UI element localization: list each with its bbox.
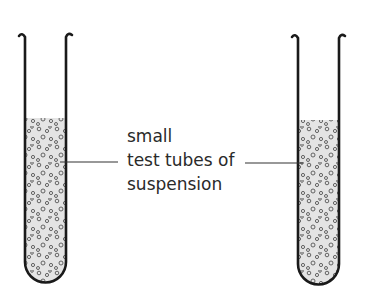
right-test-tube xyxy=(292,35,345,285)
tube-label: small test tubes of suspension xyxy=(127,124,234,196)
left-test-tube xyxy=(19,34,72,283)
label-line-2: test tubes of xyxy=(127,148,234,172)
right-suspension xyxy=(298,120,339,284)
left-suspension xyxy=(25,118,66,282)
label-line-1: small xyxy=(127,124,234,148)
label-line-3: suspension xyxy=(127,172,234,196)
